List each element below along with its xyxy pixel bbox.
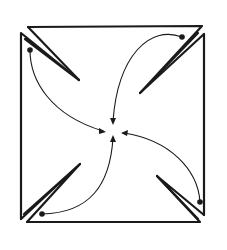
arrow-bottom-right: [121, 130, 200, 202]
arrow-top-left: [30, 50, 106, 134]
dot-top-right: [179, 34, 185, 40]
dot-top-left: [27, 47, 33, 53]
arrowhead-icon: [99, 128, 106, 134]
arrowhead-icon: [110, 118, 116, 125]
dot-bottom-right: [197, 199, 203, 205]
dot-bottom-left: [39, 211, 45, 217]
pinwheel-diagram: [0, 0, 227, 250]
arrowhead-icon: [121, 130, 128, 136]
flap-bottom-right: [27, 176, 204, 222]
arrow-top-right: [110, 34, 182, 125]
arrow-bottom-left: [42, 135, 116, 214]
arrowhead-icon: [110, 135, 116, 142]
